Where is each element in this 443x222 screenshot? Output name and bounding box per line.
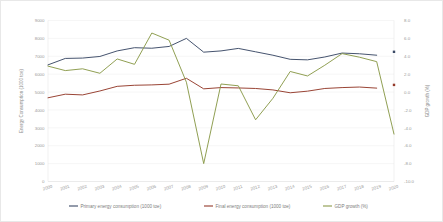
x-tick-label: 2015 (302, 184, 313, 192)
chart-container: 0100020003000400050006000700080009000 -1… (0, 0, 443, 222)
y2-tick-label: -8.0 (404, 161, 412, 166)
y-tick-label: 5000 (35, 90, 45, 95)
legend-item-1[interactable]: Final energy consumption (1000 toe) (204, 204, 291, 209)
legend-label-0: Primary energy consumption (1000 toe) (81, 204, 162, 209)
y-tick-label: 1000 (35, 161, 45, 166)
chart-legend: Primary energy consumption (1000 toe)Fin… (69, 204, 368, 209)
x-tick-label: 2013 (267, 184, 278, 192)
chart-svg: 0100020003000400050006000700080009000 -1… (1, 1, 443, 222)
x-tick-label: 2001 (59, 184, 70, 192)
legend-item-0[interactable]: Primary energy consumption (1000 toe) (69, 204, 162, 209)
x-tick-label: 2008 (181, 184, 192, 192)
x-tick-label: 2011 (233, 184, 244, 192)
legend-label-2: GDP growth (%) (335, 204, 369, 209)
x-tick-label: 2007 (163, 184, 174, 192)
y2-tick-label: -4.0 (404, 126, 412, 131)
x-axis-tick-labels: 2000200120022003200420052006200720082009… (42, 184, 399, 192)
y2-tick-label: 6.0 (404, 36, 411, 41)
x-tick-label: 2020 (388, 184, 399, 192)
plot-area: 0100020003000400050006000700080009000 -1… (1, 1, 443, 222)
x-tick-label: 2018 (354, 184, 365, 192)
x-tick-label: 2010 (215, 184, 226, 192)
x-tick-label: 2000 (42, 184, 53, 192)
y-tick-label: 2000 (35, 143, 45, 148)
y2-tick-label: 8.0 (404, 18, 411, 23)
x-tick-label: 2005 (129, 184, 140, 192)
series-marker-1 (393, 84, 395, 86)
x-tick-label: 2002 (77, 184, 88, 192)
x-tick-label: 2009 (198, 184, 209, 192)
y2-tick-label: 0.0 (404, 90, 411, 95)
x-tick-label: 2004 (111, 184, 122, 192)
x-tick-label: 2019 (371, 184, 382, 192)
x-tick-label: 2006 (146, 184, 157, 192)
y2-axis-tick-labels: -10.0-8.0-6.0-4.0-2.00.02.04.06.08.0 (404, 18, 415, 184)
y-tick-label: 4000 (35, 108, 45, 113)
y-tick-label: 3000 (35, 126, 45, 131)
gridlines-group (48, 21, 394, 182)
y2-tick-label: -2.0 (404, 108, 412, 113)
x-tick-label: 2016 (319, 184, 330, 192)
y-tick-label: 9000 (35, 18, 45, 23)
y2-tick-label: -6.0 (404, 143, 412, 148)
series-marker-0 (393, 51, 395, 53)
series-line-0 (48, 38, 377, 64)
x-tick-label: 2012 (250, 184, 261, 192)
x-tick-label: 2014 (284, 184, 295, 192)
y-tick-label: 8000 (35, 36, 45, 41)
y2-tick-label: -10.0 (404, 179, 415, 184)
series-line-1 (48, 78, 377, 97)
axis-titles-group: Energy Consumption (1000 toe)GDP growth … (19, 69, 430, 133)
y-tick-label: 7000 (35, 54, 45, 59)
axes-group (48, 21, 394, 182)
legend-label-1: Final energy consumption (1000 toe) (216, 204, 291, 209)
y2-axis-title: GDP growth (%) (425, 84, 430, 117)
x-tick-label: 2003 (94, 184, 105, 192)
y-tick-label: 0 (42, 179, 45, 184)
y-tick-label: 6000 (35, 72, 45, 77)
y-axis-tick-labels: 0100020003000400050006000700080009000 (35, 18, 45, 184)
y-axis-title: Energy Consumption (1000 toe) (19, 69, 24, 133)
y2-tick-label: 4.0 (404, 54, 411, 59)
x-tick-label: 2017 (336, 184, 347, 192)
series-lines-group (48, 33, 394, 164)
legend-item-2[interactable]: GDP growth (%) (323, 204, 368, 209)
y2-tick-label: 2.0 (404, 72, 411, 77)
